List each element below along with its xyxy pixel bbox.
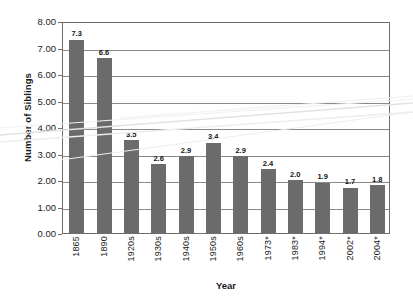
x-axis-tick-label: 1865 xyxy=(71,236,81,257)
y-axis-tick-mark xyxy=(58,22,62,23)
bar-value-label: 3.5 xyxy=(126,131,136,139)
bar xyxy=(179,156,194,233)
bar-value-label: 2.6 xyxy=(153,155,163,163)
y-axis-tick-mark xyxy=(58,181,62,182)
bar-value-label: 2.4 xyxy=(263,160,273,168)
x-axis-title: Year xyxy=(62,280,390,291)
bar-value-label: 7.3 xyxy=(71,30,81,38)
y-axis-tick-label: 8.00 xyxy=(22,17,56,27)
x-axis-tick-label: 1950s xyxy=(208,236,218,262)
bar xyxy=(151,164,166,233)
bar-value-label: 2.9 xyxy=(235,147,245,155)
bar xyxy=(97,58,112,233)
y-axis-tick-mark xyxy=(58,234,62,235)
bar-group: 7.3 xyxy=(69,23,84,233)
bar-value-label: 3.4 xyxy=(208,133,218,141)
x-axis-tick-label: 2004* xyxy=(372,236,382,261)
x-axis-tick-labels: 186518901920s1930s1940s1950s1960s1973*19… xyxy=(62,236,390,278)
y-axis-tick-labels: 0.001.002.003.004.005.006.007.008.00 xyxy=(22,22,56,234)
bar xyxy=(124,140,139,233)
bar-group: 2.6 xyxy=(151,23,166,233)
y-axis-tick-label: 4.00 xyxy=(22,123,56,133)
y-axis-tick-mark xyxy=(58,208,62,209)
bar-group: 3.5 xyxy=(124,23,139,233)
bar-value-label: 1.7 xyxy=(345,178,355,186)
y-axis-tick-label: 1.00 xyxy=(22,203,56,213)
bar-value-label: 1.9 xyxy=(317,173,327,181)
y-axis-tick-label: 5.00 xyxy=(22,97,56,107)
x-axis-tick-label: 1940s xyxy=(181,236,191,262)
bar xyxy=(288,180,303,233)
x-axis-tick-label: 1890 xyxy=(99,236,109,257)
x-axis-tick-label: 2002* xyxy=(345,236,355,261)
bar-group: 2.4 xyxy=(261,23,276,233)
y-axis-tick-mark xyxy=(58,75,62,76)
bar-value-label: 2.0 xyxy=(290,171,300,179)
y-axis-tick-label: 2.00 xyxy=(22,176,56,186)
y-axis-tick-label: 6.00 xyxy=(22,70,56,80)
bar xyxy=(206,143,221,233)
bar-group: 1.7 xyxy=(343,23,358,233)
y-axis-tick-label: 0.00 xyxy=(22,229,56,239)
bar-group: 1.8 xyxy=(370,23,385,233)
bar xyxy=(343,188,358,233)
bar-group: 2.9 xyxy=(179,23,194,233)
y-axis-tick-mark xyxy=(58,102,62,103)
bar xyxy=(69,40,84,233)
bar xyxy=(370,185,385,233)
y-axis-tick-label: 3.00 xyxy=(22,150,56,160)
x-axis-tick-label: 1973* xyxy=(263,236,273,261)
bar xyxy=(233,156,248,233)
x-axis-tick-label: 1994* xyxy=(317,236,327,261)
bar xyxy=(315,183,330,233)
bar-group: 2.0 xyxy=(288,23,303,233)
bar-group: 2.9 xyxy=(233,23,248,233)
plot-area: 7.36.63.52.62.93.42.92.42.01.91.71.8 xyxy=(62,22,390,234)
x-axis-tick-label: 1920s xyxy=(126,236,136,262)
bar-value-label: 6.6 xyxy=(99,49,109,57)
bar-group: 6.6 xyxy=(97,23,112,233)
bar-value-label: 1.8 xyxy=(372,176,382,184)
bar xyxy=(261,169,276,233)
x-axis-tick-label: 1983* xyxy=(290,236,300,261)
y-axis-tick-mark xyxy=(58,155,62,156)
y-axis-tick-mark xyxy=(58,128,62,129)
bar-group: 3.4 xyxy=(206,23,221,233)
x-axis-tick-label: 1930s xyxy=(153,236,163,262)
bar-value-label: 2.9 xyxy=(181,147,191,155)
x-axis-tick-label: 1960s xyxy=(235,236,245,262)
sibling-count-bar-chart: Number of Siblings 0.001.002.003.004.005… xyxy=(0,0,413,302)
y-axis-tick-label: 7.00 xyxy=(22,44,56,54)
bar-group: 1.9 xyxy=(315,23,330,233)
bars-layer: 7.36.63.52.62.93.42.92.42.01.91.71.8 xyxy=(63,23,389,233)
y-axis-tick-mark xyxy=(58,49,62,50)
